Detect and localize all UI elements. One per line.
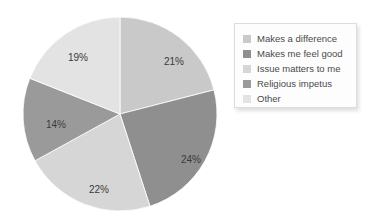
legend-item-label: Issue matters to me [257, 63, 340, 75]
legend-swatch-icon [243, 95, 251, 103]
pie-slice-label: 22% [89, 184, 109, 195]
legend-item-label: Other [257, 93, 281, 105]
chart-legend: Makes a differenceMakes me feel goodIssu… [234, 23, 357, 108]
legend-item[interactable]: Makes a difference [243, 32, 349, 46]
legend-item-label: Religious impetus [257, 78, 332, 90]
legend-swatch-icon [243, 35, 251, 43]
legend-item[interactable]: Other [243, 92, 349, 106]
pie-slice-label: 24% [181, 154, 201, 165]
legend-item[interactable]: Religious impetus [243, 77, 349, 91]
legend-swatch-icon [243, 80, 251, 88]
legend-item[interactable]: Makes me feel good [243, 47, 349, 61]
legend-swatch-icon [243, 50, 251, 58]
pie-chart-svg: 21%24%22%14%19% [22, 14, 218, 214]
legend-item-label: Makes me feel good [257, 48, 343, 60]
pie-slice-label: 14% [46, 119, 66, 130]
legend-item[interactable]: Issue matters to me [243, 62, 349, 76]
pie-slice-label: 21% [164, 56, 184, 67]
pie-chart: 21%24%22%14%19% [22, 14, 218, 214]
pie-slice-label: 19% [68, 52, 88, 63]
pie-slice-group [23, 17, 217, 211]
legend-item-label: Makes a difference [257, 33, 337, 45]
legend-item-list: Makes a differenceMakes me feel goodIssu… [243, 32, 349, 106]
pie-chart-screenshot: 21%24%22%14%19% Makes a differenceMakes … [0, 0, 376, 215]
legend-swatch-icon [243, 65, 251, 73]
